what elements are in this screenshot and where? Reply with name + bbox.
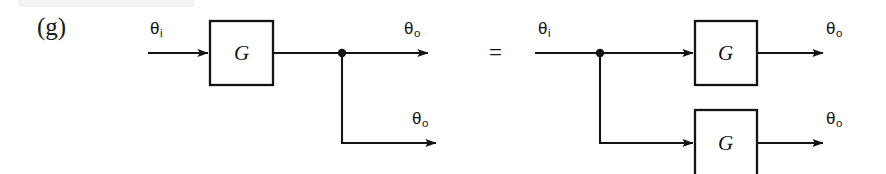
part-label: (g): [37, 14, 66, 39]
subscript-glyph: o: [422, 117, 428, 129]
left-output-top-label: θo: [404, 20, 420, 37]
subscript-glyph: i: [160, 27, 163, 39]
block-g-right-top-label: G: [718, 43, 733, 64]
equals-sign: =: [489, 41, 502, 64]
theta-glyph: θ: [404, 19, 413, 38]
theta-glyph: θ: [826, 19, 835, 38]
left-input-label: θi: [150, 20, 162, 37]
theta-glyph: θ: [150, 19, 159, 38]
theta-glyph: θ: [826, 109, 835, 128]
takeoff-point-left-dot: [338, 49, 346, 57]
subscript-glyph: o: [836, 117, 842, 129]
block-g-right-bottom-label: G: [718, 133, 733, 154]
theta-glyph: θ: [412, 109, 421, 128]
right-input-label: θi: [538, 20, 550, 37]
diagram-canvas: [0, 0, 886, 174]
right-output-top-label: θo: [826, 20, 842, 37]
takeoff-point-right-dot: [596, 49, 604, 57]
subscript-glyph: i: [548, 27, 551, 39]
subscript-glyph: o: [414, 27, 420, 39]
subscript-glyph: o: [836, 27, 842, 39]
left-output-bottom-label: θo: [412, 110, 428, 127]
right-output-bottom-label: θo: [826, 110, 842, 127]
block-diagram-figure: (g) θi G θo θo = θi G G θo θo: [0, 0, 886, 174]
block-g-left-label: G: [234, 43, 249, 64]
theta-glyph: θ: [538, 19, 547, 38]
